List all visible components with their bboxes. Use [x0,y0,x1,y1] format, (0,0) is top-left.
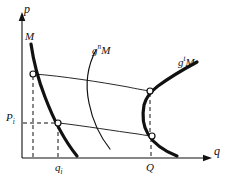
economics-phase-diagram: p q M gnM gtM Pi qi Q [0,0,230,182]
curve-M-path [31,44,77,156]
curve-gnM [87,50,110,149]
thin-arc-lower [59,123,152,136]
marker-lower-right-point [149,133,155,139]
thin-arc-upper [34,74,149,91]
curve-label-gtM-set: M [186,56,195,68]
tick-label-price-subscript: i [13,118,15,126]
marker-lower-left-point [55,120,61,126]
curve-gnM-path [87,50,110,149]
tick-label-quantity-large: Q [146,162,154,173]
tick-label-price-base: P [6,111,13,123]
curve-label-gnM: gnM [92,44,110,56]
tick-label-quantity-large-base: Q [146,161,154,173]
q-axis-label: q [214,145,220,157]
p-axis-label: p [24,3,30,15]
marker-upper-left-point [30,71,36,77]
tick-label-quantity-small-subscript: i [61,168,63,176]
diagram-canvas [0,0,230,182]
tick-label-price: Pi [6,112,15,126]
thin-connecting-arcs [34,74,152,136]
curve-label-M-text: M [25,30,34,42]
axis-group [19,12,212,161]
curve-M [31,44,77,156]
q-axis-arrowhead [203,155,212,162]
tick-label-quantity-small: qi [55,162,63,176]
marker-upper-right-point [147,88,153,94]
curve-label-M: M [25,31,34,42]
curve-label-gnM-set: M [101,44,110,56]
curve-label-gtM: gtM [178,56,195,68]
